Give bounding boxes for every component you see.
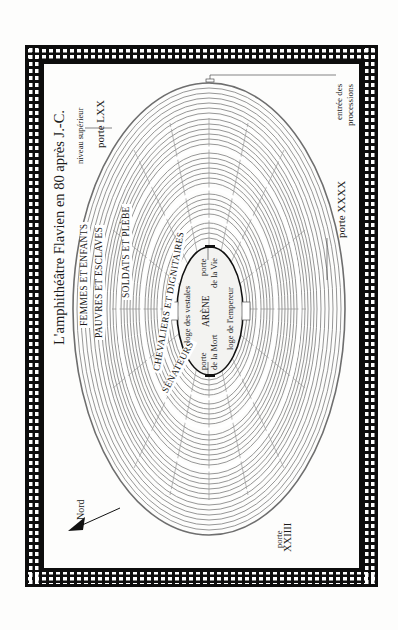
loge-empereur-box — [242, 302, 250, 320]
entree-processions-label-2: processions — [346, 84, 355, 126]
porte-vie-label-2: de la Vie — [210, 258, 219, 288]
entree-processions-label-1: entrée des — [335, 84, 344, 120]
porte-lxx-label: porte LXX — [95, 100, 106, 148]
zone-label-pauvres: PAUVRES ET ESCLAVES — [95, 225, 105, 340]
porte-xxiiii-label-2: XXIIII — [283, 523, 294, 552]
porte-mort-label-1: porte — [199, 353, 208, 370]
arena-label: ARÈNE — [202, 295, 212, 327]
porte-mort-label-2: de la Mort — [210, 335, 219, 370]
loge-vestales-label: loge des vestales — [183, 286, 192, 343]
zone-label-soldats: SOLDATS ET PLÈBE — [122, 204, 132, 300]
porte-xxxx-label: porte XXXX — [336, 181, 347, 238]
zone-label-femmes: FEMMES ET ENFANTS — [80, 222, 90, 328]
niveau-superieur-label: niveau supérieur — [76, 108, 85, 164]
porte-vie-label-1: porte — [199, 259, 208, 276]
page-title: L'amphithéâtre Flavien en 80 après J.-C. — [52, 110, 67, 345]
loge-empereur-label: loge de l'empereur — [226, 287, 235, 350]
compass-label: Nord — [76, 499, 86, 520]
